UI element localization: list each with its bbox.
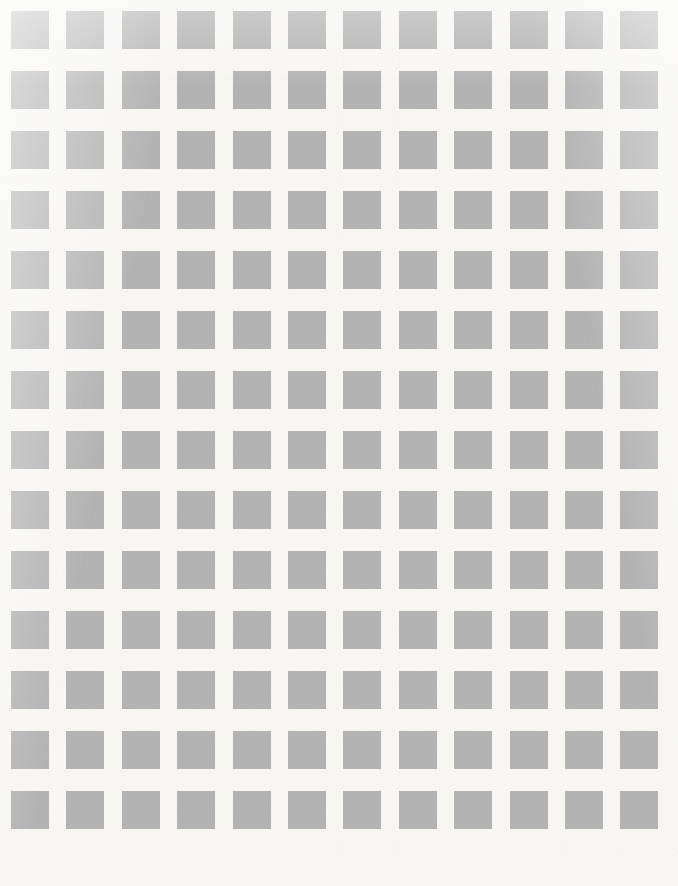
grid-square <box>399 791 437 829</box>
grid-square <box>233 551 271 589</box>
grid-square <box>454 131 492 169</box>
grid-square <box>565 731 603 769</box>
grid-square <box>66 71 104 109</box>
grid-square <box>233 191 271 229</box>
grid-square <box>177 671 215 709</box>
grid-square <box>11 11 49 49</box>
grid-square <box>620 11 658 49</box>
grid-square <box>233 11 271 49</box>
grid-square <box>510 731 548 769</box>
grid-square <box>510 311 548 349</box>
grid-square <box>620 611 658 649</box>
grid-square <box>565 611 603 649</box>
grid-square <box>288 71 326 109</box>
grid-square <box>233 491 271 529</box>
grid-square <box>177 431 215 469</box>
grid-square <box>11 611 49 649</box>
grid-square <box>620 371 658 409</box>
grid-square <box>565 371 603 409</box>
grid-square <box>399 191 437 229</box>
grid-square <box>177 191 215 229</box>
grid-square <box>343 491 381 529</box>
grid-square <box>343 191 381 229</box>
grid-square <box>399 71 437 109</box>
grid-square <box>288 551 326 589</box>
grid-square <box>288 11 326 49</box>
grid-square <box>620 491 658 529</box>
grid-square <box>510 71 548 109</box>
grid-square <box>620 431 658 469</box>
grid-square <box>11 791 49 829</box>
grid-square <box>454 191 492 229</box>
grid-square <box>454 611 492 649</box>
grid-square <box>454 311 492 349</box>
grid-square <box>11 311 49 349</box>
grid-square <box>177 611 215 649</box>
grid-square <box>454 11 492 49</box>
grid-square <box>399 491 437 529</box>
grid-square <box>510 371 548 409</box>
grid-square <box>288 671 326 709</box>
grid-square <box>620 671 658 709</box>
grid-square <box>399 611 437 649</box>
grid-square <box>288 431 326 469</box>
grid-square <box>620 791 658 829</box>
grid-square <box>510 671 548 709</box>
grid-square <box>288 491 326 529</box>
grid-square <box>399 731 437 769</box>
grid-square <box>565 191 603 229</box>
grid-square <box>233 431 271 469</box>
grid-square <box>177 791 215 829</box>
grid-square <box>11 191 49 229</box>
grid-square <box>66 551 104 589</box>
grid-square <box>565 551 603 589</box>
grid-square <box>11 371 49 409</box>
grid-square <box>66 371 104 409</box>
grid-square <box>122 671 160 709</box>
grid-square <box>233 131 271 169</box>
grid-square <box>11 71 49 109</box>
grid-square <box>288 611 326 649</box>
grid-square <box>66 791 104 829</box>
grid-square <box>233 251 271 289</box>
grid-square <box>11 551 49 589</box>
grid-square <box>565 11 603 49</box>
grid-square <box>122 611 160 649</box>
grid-square <box>565 311 603 349</box>
grid-square <box>288 191 326 229</box>
grid-square <box>454 791 492 829</box>
grid-square <box>343 431 381 469</box>
grid-square <box>66 671 104 709</box>
grid-square <box>510 791 548 829</box>
grid-square <box>343 551 381 589</box>
grid-square <box>454 491 492 529</box>
grid-square <box>454 671 492 709</box>
grid-square <box>288 131 326 169</box>
grid-square <box>177 371 215 409</box>
grid-square <box>620 551 658 589</box>
grid-square <box>620 311 658 349</box>
grid-square <box>343 791 381 829</box>
grid-square <box>343 731 381 769</box>
grid-square <box>510 251 548 289</box>
grid-square <box>565 131 603 169</box>
grid-square <box>565 791 603 829</box>
grid-square <box>565 251 603 289</box>
grid-square <box>510 191 548 229</box>
grid-square <box>454 371 492 409</box>
grid-square <box>565 491 603 529</box>
grid-square <box>565 671 603 709</box>
grid-square <box>343 131 381 169</box>
grid-square <box>288 731 326 769</box>
grid-square <box>399 251 437 289</box>
grid-square <box>11 251 49 289</box>
grid-square <box>399 311 437 349</box>
grid-square <box>399 551 437 589</box>
grid-square <box>122 71 160 109</box>
grid-square <box>122 11 160 49</box>
grid-square <box>11 731 49 769</box>
grid-square <box>177 491 215 529</box>
grid-square <box>177 251 215 289</box>
grid-square <box>288 251 326 289</box>
grid-square <box>233 731 271 769</box>
